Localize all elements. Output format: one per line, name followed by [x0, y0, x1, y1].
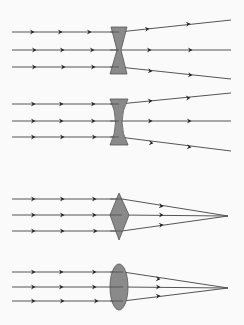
arrow-icon	[187, 144, 192, 149]
refracted-ray	[123, 287, 228, 288]
arrow-icon	[148, 68, 153, 73]
refracted-ray	[122, 216, 228, 231]
lens-shape	[110, 99, 128, 145]
refracted-ray	[119, 20, 231, 32]
refracted-ray	[122, 215, 228, 216]
diverging-lens-biconcave-diagram	[12, 93, 231, 151]
refracted-ray	[123, 272, 228, 288]
arrow-icon	[186, 22, 191, 27]
lens	[110, 99, 128, 145]
refracted-ray	[123, 288, 228, 301]
refracted-ray	[119, 137, 231, 151]
refracted-ray	[122, 199, 228, 216]
refracted-ray	[119, 93, 231, 104]
lens-ray-diagram	[0, 0, 244, 325]
converging-lens-biconvex-diagram	[12, 264, 228, 310]
arrow-icon	[186, 96, 191, 101]
refracted-ray	[119, 67, 231, 79]
diverging-lens-hourglass-diagram	[12, 20, 231, 79]
converging-lens-diamond-diagram	[12, 193, 228, 240]
